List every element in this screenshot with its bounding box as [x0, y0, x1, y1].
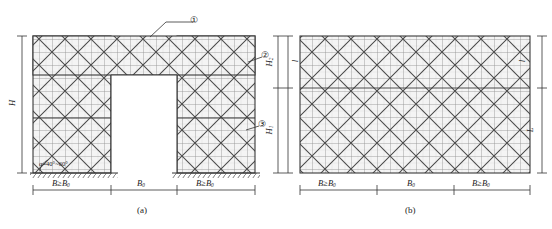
panel-a-dim-mid: B0: [137, 178, 145, 188]
callout-1-label: ①: [190, 15, 198, 25]
scaffolding-diagram: [0, 0, 552, 229]
dim-H1-sub: 1: [268, 126, 274, 129]
panel-b-dim-right-l: [537, 36, 547, 88]
dim-H-label: H: [7, 100, 17, 106]
dim-H1-symbol: H: [264, 128, 274, 134]
callout-1-leader: [150, 22, 193, 37]
dim-H2-sub: 2: [268, 58, 274, 61]
panel-b-dim-left-l-label: l: [290, 60, 300, 62]
panel-a-dim-H: [17, 36, 27, 173]
panel-a-dim-right: B≥B0: [196, 178, 214, 188]
panel-a-dim-H2: [273, 36, 283, 88]
panel-a-dim-mid-sub: 0: [142, 182, 145, 188]
panel-a-top-beam: [33, 36, 255, 75]
figure-root: ① ② ③ α=40°~60° H H2 H1 B≥B0 B0 B≥B0 (a)…: [0, 0, 552, 229]
panel-a-dim-H1: [273, 88, 283, 173]
panel-a-dim-left: B≥B0: [52, 178, 70, 188]
panel-b-dim-right: B≥B0: [472, 178, 490, 188]
panel-a-structure: [17, 22, 283, 195]
dim-H2-symbol: H: [264, 60, 274, 66]
panel-a-caption: (a): [137, 205, 147, 215]
panel-b-dim-left-lower: [283, 88, 293, 173]
panel-b-dim-right-l-label: l: [517, 60, 527, 62]
panel-b-caption: (b): [405, 205, 416, 215]
panel-a-opening: [111, 75, 177, 173]
dim-H2-label: H2: [264, 58, 274, 67]
panel-b-dim-mid: B0: [407, 178, 415, 188]
panel-a-dim-right-refsub: 0: [211, 182, 214, 188]
panel-b-grid: [300, 36, 530, 173]
panel-b-structure: [283, 36, 547, 195]
panel-b-dim-left-refsub: 0: [333, 182, 336, 188]
panel-a-dim-left-refsub: 0: [67, 182, 70, 188]
panel-b-dim-left: B≥B0: [318, 178, 336, 188]
panel-b-dim-mid-sub: 0: [412, 182, 415, 188]
dim-H1-label: H1: [264, 126, 274, 135]
panel-b-dim-right-L: [537, 88, 547, 173]
angle-note: α=40°~60°: [39, 160, 68, 167]
panel-b-dim-right-refsub: 0: [487, 182, 490, 188]
panel-b-dim-right-L-label: L: [525, 128, 535, 133]
